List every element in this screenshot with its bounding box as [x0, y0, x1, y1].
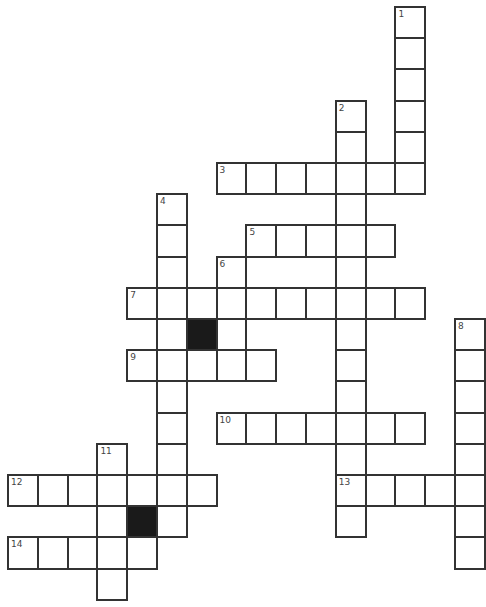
crossword-cell[interactable] — [96, 474, 128, 507]
clue-number: 10 — [220, 415, 231, 425]
crossword-cell[interactable] — [305, 224, 337, 257]
crossword-cell[interactable] — [305, 162, 337, 195]
crossword-cell[interactable] — [335, 162, 367, 195]
crossword-cell[interactable] — [156, 412, 188, 445]
crossword-cell[interactable]: 10 — [216, 412, 248, 445]
clue-number: 5 — [249, 227, 255, 237]
crossword-cell[interactable] — [454, 505, 486, 538]
crossword-cell[interactable] — [394, 287, 426, 320]
black-cell — [186, 318, 218, 351]
crossword-cell[interactable] — [245, 162, 277, 195]
crossword-cell[interactable] — [216, 349, 248, 382]
crossword-cell[interactable]: 1 — [394, 6, 426, 39]
crossword-cell[interactable]: 2 — [335, 100, 367, 133]
crossword-cell[interactable] — [365, 412, 397, 445]
crossword-cell[interactable] — [96, 568, 128, 601]
crossword-cell[interactable] — [245, 287, 277, 320]
crossword-cell[interactable] — [126, 474, 158, 507]
crossword-cell[interactable] — [67, 536, 99, 569]
crossword-grid: 1213345678910111214 — [0, 0, 486, 607]
crossword-cell[interactable]: 11 — [96, 443, 128, 476]
clue-number: 7 — [130, 290, 136, 300]
crossword-cell[interactable] — [37, 474, 69, 507]
crossword-cell[interactable] — [335, 224, 367, 257]
crossword-cell[interactable] — [365, 162, 397, 195]
crossword-cell[interactable] — [335, 380, 367, 413]
clue-number: 13 — [339, 477, 350, 487]
crossword-cell[interactable] — [335, 131, 367, 164]
crossword-cell[interactable] — [156, 287, 188, 320]
crossword-cell[interactable] — [156, 380, 188, 413]
crossword-cell[interactable] — [365, 287, 397, 320]
crossword-cell[interactable] — [454, 536, 486, 569]
clue-number: 6 — [220, 259, 226, 269]
crossword-cell[interactable] — [454, 349, 486, 382]
crossword-cell[interactable] — [335, 193, 367, 226]
crossword-cell[interactable] — [275, 287, 307, 320]
crossword-cell[interactable] — [156, 256, 188, 289]
crossword-cell[interactable] — [454, 380, 486, 413]
crossword-cell[interactable] — [394, 37, 426, 70]
crossword-cell[interactable] — [245, 349, 277, 382]
crossword-cell[interactable] — [96, 536, 128, 569]
clue-number: 9 — [130, 352, 136, 362]
crossword-cell[interactable] — [335, 505, 367, 538]
crossword-cell[interactable]: 14 — [7, 536, 39, 569]
crossword-cell[interactable]: 3 — [216, 162, 248, 195]
crossword-cell[interactable] — [156, 224, 188, 257]
crossword-cell[interactable]: 9 — [126, 349, 158, 382]
crossword-cell[interactable] — [305, 412, 337, 445]
crossword-cell[interactable]: 6 — [216, 256, 248, 289]
crossword-cell[interactable]: 5 — [245, 224, 277, 257]
crossword-cell[interactable] — [275, 224, 307, 257]
crossword-cell[interactable] — [335, 318, 367, 351]
crossword-cell[interactable] — [156, 443, 188, 476]
clue-number: 12 — [11, 477, 22, 487]
crossword-cell[interactable] — [186, 349, 218, 382]
crossword-cell[interactable] — [275, 412, 307, 445]
crossword-cell[interactable] — [394, 474, 426, 507]
crossword-cell[interactable] — [394, 131, 426, 164]
crossword-cell[interactable]: 12 — [7, 474, 39, 507]
crossword-cell[interactable] — [365, 224, 397, 257]
crossword-cell[interactable] — [37, 536, 69, 569]
clue-number: 11 — [100, 446, 111, 456]
crossword-cell[interactable] — [454, 443, 486, 476]
crossword-cell[interactable] — [216, 318, 248, 351]
clue-number: 1 — [398, 9, 404, 19]
crossword-cell[interactable] — [156, 349, 188, 382]
clue-number: 2 — [339, 103, 345, 113]
crossword-cell[interactable] — [67, 474, 99, 507]
crossword-cell[interactable] — [335, 287, 367, 320]
crossword-cell[interactable]: 13 — [335, 474, 367, 507]
crossword-cell[interactable] — [394, 162, 426, 195]
crossword-cell[interactable]: 7 — [126, 287, 158, 320]
crossword-cell[interactable] — [96, 505, 128, 538]
crossword-cell[interactable] — [156, 474, 188, 507]
crossword-cell[interactable] — [245, 412, 277, 445]
crossword-cell[interactable] — [216, 287, 248, 320]
crossword-cell[interactable]: 4 — [156, 193, 188, 226]
crossword-cell[interactable] — [335, 256, 367, 289]
crossword-cell[interactable] — [156, 505, 188, 538]
crossword-cell[interactable] — [156, 318, 188, 351]
crossword-cell[interactable] — [275, 162, 307, 195]
crossword-cell[interactable] — [454, 412, 486, 445]
black-cell — [126, 505, 158, 538]
crossword-cell[interactable] — [394, 100, 426, 133]
crossword-cell[interactable] — [335, 349, 367, 382]
crossword-cell[interactable] — [424, 474, 456, 507]
crossword-cell[interactable] — [305, 287, 337, 320]
crossword-cell[interactable] — [186, 474, 218, 507]
crossword-cell[interactable] — [454, 474, 486, 507]
clue-number: 14 — [11, 539, 22, 549]
crossword-cell[interactable] — [365, 474, 397, 507]
crossword-cell[interactable] — [335, 443, 367, 476]
crossword-cell[interactable] — [335, 412, 367, 445]
clue-number: 8 — [458, 321, 464, 331]
crossword-cell[interactable] — [394, 412, 426, 445]
crossword-cell[interactable] — [126, 536, 158, 569]
crossword-cell[interactable] — [394, 68, 426, 101]
crossword-cell[interactable] — [186, 287, 218, 320]
crossword-cell[interactable]: 8 — [454, 318, 486, 351]
